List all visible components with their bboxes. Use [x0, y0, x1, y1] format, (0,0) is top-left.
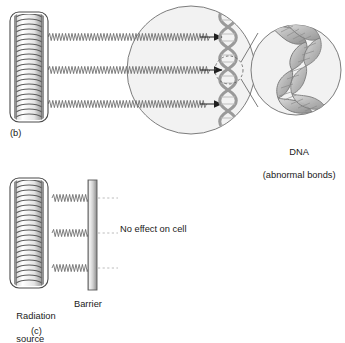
- dna-label-line2: (abnormal bonds): [263, 170, 336, 180]
- radiation-source-panel-c: [10, 178, 48, 288]
- radiation-source-line1: Radiation: [16, 311, 55, 321]
- barrier-label: Barrier: [74, 299, 102, 311]
- dna-label-line1: DNA: [289, 147, 309, 157]
- figure-canvas: (b) DNA (abnormal bonds) No effect on ce…: [0, 0, 345, 343]
- barrier: [88, 180, 97, 290]
- radiation-source-label: Radiation source: [6, 299, 56, 343]
- dna-label: DNA (abnormal bonds): [248, 135, 340, 193]
- panel-label-c: (c): [31, 326, 42, 336]
- no-effect-label: No effect on cell: [120, 224, 187, 236]
- radiation-rays-panel-c: [52, 194, 89, 271]
- blocked-rays-dotted-panel-c: [98, 198, 118, 268]
- panel-label-b: (b): [10, 128, 21, 138]
- radiation-source-panel-b: [10, 12, 48, 122]
